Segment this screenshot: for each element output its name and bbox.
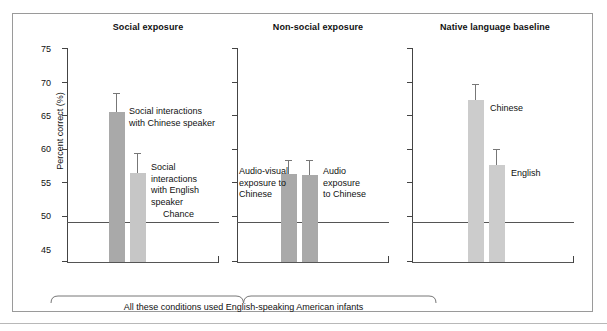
figure-frame: Percent correct (%) 75 70 65 60 55 50 45… [12,13,593,312]
panel1-tick-75 [62,48,67,49]
figure-root: Percent correct (%) 75 70 65 60 55 50 45… [0,0,607,331]
panel2-tick-70 [232,82,237,83]
panel1-baseline [67,262,219,263]
errorbar-social-english [137,153,138,173]
bar-label-social-english: Social interactions with English speaker [151,162,231,208]
panel1-tick-70 [62,82,67,83]
label-line: with Chinese speaker [129,118,215,128]
label-line: to Chinese [323,189,366,199]
panel2-tick-75 [232,48,237,49]
bar-label-audiovisual-chinese: Audio-visual exposure to Chinese [239,166,301,201]
label-line: with English [151,185,199,195]
errorbar-native-english [496,149,497,165]
bar-label-audio-chinese: Audio exposure to Chinese [323,166,393,201]
panel2-tick-55 [232,182,237,183]
panel1-tick-60 [62,149,67,150]
label-line: Audio-visual [239,166,288,176]
panel1-right-tick [218,256,219,263]
panel-title-native-baseline: Native language baseline [400,22,590,32]
panel2-tick-60 [232,149,237,150]
y-tick-60: 60 [29,144,51,154]
bar-social-english [130,173,146,262]
chance-label: Chance [163,209,194,219]
label-line: exposure to [239,178,286,188]
panel1-tick-55 [62,182,67,183]
errorcap-audio-chinese [306,160,313,161]
y-tick-50: 50 [29,211,51,221]
errorcap-native-chinese [472,84,479,85]
panel3-tick-75 [407,48,412,49]
y-tick-55: 55 [29,178,51,188]
bottom-brace [50,290,437,299]
bar-native-chinese [468,100,484,262]
errorbar-audio-chinese [309,160,310,175]
panel3-tick-65 [407,115,412,116]
panel3-tick-55 [407,182,412,183]
page-bottom-rule [0,323,607,324]
errorcap-audiovisual-chinese [285,160,292,161]
panel-title-social-exposure: Social exposure [58,22,238,32]
bar-label-social-chinese: Social interactions with Chinese speaker [129,106,249,129]
label-line: Chinese [239,189,272,199]
panel-title-nonsocial-exposure: Non-social exposure [228,22,408,32]
panel2-y-spine [237,48,238,262]
footer-caption: All these conditions used English-speaki… [50,302,437,312]
panel1-tick-50 [62,216,67,217]
y-tick-70: 70 [29,78,51,88]
panel1-y-spine [67,48,68,262]
bar-label-native-chinese: Chinese [490,103,560,115]
y-tick-45: 45 [29,245,51,255]
panel2-right-tick [388,256,389,263]
label-line: Audio [323,166,346,176]
panel3-tick-60 [407,149,412,150]
bar-label-native-english: English [511,168,581,180]
panel2-tick-65 [232,115,237,116]
label-line: interactions [151,174,197,184]
bar-native-english [489,165,505,262]
label-line: exposure [323,178,360,188]
errorcap-social-chinese [113,93,120,94]
y-tick-65: 65 [29,111,51,121]
label-line: speaker [151,197,183,207]
bar-social-chinese [109,112,125,262]
panel3-right-tick [573,256,574,263]
errorbar-social-chinese [116,93,117,112]
panel2-baseline [237,262,389,263]
panel3-tick-50 [407,216,412,217]
errorcap-social-english [134,153,141,154]
panel3-y-spine [412,48,413,262]
errorbar-native-chinese [475,84,476,100]
panel3-baseline [412,262,574,263]
label-line: Social [151,162,176,172]
errorcap-native-english [493,149,500,150]
panel1-tick-65 [62,115,67,116]
panel2-tick-50 [232,216,237,217]
y-tick-75: 75 [29,44,51,54]
label-line: Social interactions [129,106,202,116]
panel3-tick-70 [407,82,412,83]
bar-audio-chinese [302,175,318,262]
